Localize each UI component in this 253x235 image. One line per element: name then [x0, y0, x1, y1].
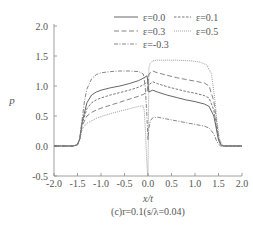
y-axis-label: p — [8, 94, 15, 106]
x-tick-label: 1.5 — [212, 178, 225, 189]
y-tick-label: 1.5 — [36, 51, 49, 62]
x-tick-label: 1.0 — [189, 178, 202, 189]
line-chart: -0.50.00.51.01.52.0-2.0-1.5-1.0-0.50.00.… — [0, 0, 253, 235]
x-tick-label: 0.0 — [142, 178, 155, 189]
legend-label: ε=0.5 — [196, 26, 218, 37]
x-axis-label: x/t — [142, 193, 153, 204]
legend-label: ε=-0.3 — [143, 39, 169, 50]
x-tick-label: -1.5 — [70, 178, 86, 189]
x-tick-label: 0.5 — [165, 178, 178, 189]
y-tick-label: 1.0 — [36, 81, 49, 92]
y-tick-label: 0.0 — [36, 141, 49, 152]
chart-caption: (c)r=0.1(s/λ=0.04) — [111, 206, 185, 218]
chart-container: -0.50.00.51.01.52.0-2.0-1.5-1.0-0.50.00.… — [0, 0, 253, 235]
legend-label: ε=0.1 — [196, 12, 218, 23]
x-tick-label: -2.0 — [46, 178, 62, 189]
legend-label: ε=0.0 — [143, 12, 165, 23]
x-tick-label: 2.0 — [236, 178, 249, 189]
y-tick-label: 0.5 — [36, 111, 49, 122]
series-layer — [54, 60, 242, 176]
y-tick-label: 2.0 — [36, 21, 49, 32]
x-tick-label: -0.5 — [117, 178, 133, 189]
legend-label: ε=0.3 — [143, 26, 165, 37]
axes: -0.50.00.51.01.52.0-2.0-1.5-1.0-0.50.00.… — [32, 21, 248, 190]
x-tick-label: -1.0 — [93, 178, 109, 189]
legend: ε=0.0ε=0.1ε=0.3ε=0.5ε=-0.3 — [114, 12, 218, 50]
